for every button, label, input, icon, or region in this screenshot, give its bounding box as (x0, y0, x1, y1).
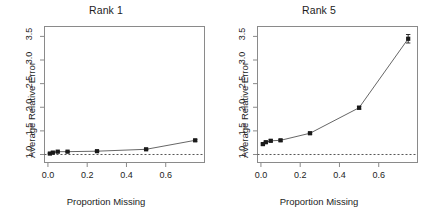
y-tick-text: 1.0 (238, 146, 248, 159)
y-tick-text: 2.5 (25, 75, 35, 88)
y-tick-text: 2.0 (25, 99, 35, 112)
data-point (51, 151, 55, 155)
y-tick-label: 1.0 (0, 147, 36, 157)
x-tick-label: 0.4 (323, 170, 355, 180)
y-tick-label: 3.5 (0, 29, 36, 39)
y-tick-label: 1.0 (213, 147, 249, 157)
figure-two-panel-plot: Rank 1 Average Relative Error Proportion… (0, 0, 425, 219)
y-tick-label: 2.0 (213, 100, 249, 110)
data-point (357, 106, 361, 110)
y-tick-label: 1.5 (213, 124, 249, 134)
y-tick-label: 3.0 (213, 53, 249, 63)
data-point (65, 150, 69, 154)
x-tick-label: 0.6 (363, 170, 395, 180)
y-tick-text: 1.0 (25, 146, 35, 159)
data-point (264, 140, 268, 144)
y-tick-text: 2.5 (238, 75, 248, 88)
data-point (56, 150, 60, 154)
y-tick-text: 3.0 (25, 52, 35, 65)
y-tick-label: 3.5 (213, 29, 249, 39)
data-point (95, 149, 99, 153)
y-tick-text: 3.0 (238, 52, 248, 65)
x-tick-label: 0.0 (245, 170, 277, 180)
panel-rank-1: Rank 1 Average Relative Error Proportion… (0, 0, 212, 219)
y-tick-label: 2.0 (0, 100, 36, 110)
x-axis-label-rank-1: Proportion Missing (0, 196, 212, 207)
data-point (406, 37, 410, 41)
y-tick-text: 2.0 (238, 99, 248, 112)
data-point (269, 139, 273, 143)
y-tick-label: 1.5 (0, 124, 36, 134)
y-tick-label: 2.5 (213, 77, 249, 87)
y-tick-text: 3.5 (238, 28, 248, 41)
y-tick-label: 3.0 (0, 53, 36, 63)
y-tick-text: 1.5 (238, 123, 248, 136)
x-tick-label: 0.4 (110, 170, 142, 180)
panel-rank-5: Rank 5 Average Relative Error Proportion… (213, 0, 425, 219)
data-point (193, 138, 197, 142)
y-tick-text: 3.5 (25, 28, 35, 41)
y-tick-text: 1.5 (25, 123, 35, 136)
x-tick-label: 0.2 (71, 170, 103, 180)
x-tick-label: 0.0 (32, 170, 64, 180)
data-point (308, 131, 312, 135)
data-point (144, 147, 148, 151)
x-axis-label-rank-5: Proportion Missing (213, 196, 425, 207)
data-point (278, 138, 282, 142)
y-tick-label: 2.5 (0, 77, 36, 87)
x-tick-label: 0.6 (150, 170, 182, 180)
x-tick-label: 0.2 (284, 170, 316, 180)
